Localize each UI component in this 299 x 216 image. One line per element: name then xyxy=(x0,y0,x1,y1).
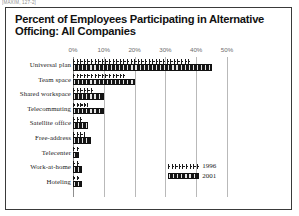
plot-area: 0%10%20%30%40%50% Universal planTeam spa… xyxy=(6,46,291,206)
category-label: Telecenter xyxy=(42,149,71,156)
bar-1996 xyxy=(73,176,79,181)
chart-row: Hoteling xyxy=(6,175,291,189)
bar-1996 xyxy=(73,117,82,122)
chart-legend: 19962001 xyxy=(168,161,238,181)
figure-frame: Percent of Employees Participating in Al… xyxy=(5,7,292,210)
grid-and-bars: Universal planTeam spaceShared workspace… xyxy=(6,57,291,197)
bar-1996 xyxy=(73,88,95,93)
x-tick-label: 40% xyxy=(190,46,202,53)
chart-row: Free-address xyxy=(6,131,291,145)
x-tick-label: 20% xyxy=(128,46,140,53)
bar-1996 xyxy=(73,59,190,64)
bar-1996 xyxy=(73,132,85,137)
bar-2001 xyxy=(73,166,82,173)
chart-row: Telecommuting xyxy=(6,102,291,116)
category-label: Team space xyxy=(38,76,71,83)
x-axis-tick-labels: 0%10%20%30%40%50% xyxy=(6,46,291,57)
category-label: Satellite office xyxy=(30,119,71,126)
bar-2001 xyxy=(73,181,82,188)
bar-1996 xyxy=(73,103,88,108)
chart-title: Percent of Employees Participating in Al… xyxy=(15,13,283,38)
bar-1996 xyxy=(73,161,79,166)
chart-row: Team space xyxy=(6,73,291,87)
legend-item: 1996 xyxy=(168,161,238,171)
x-tick-label: 30% xyxy=(159,46,171,53)
bar-2001 xyxy=(73,64,212,71)
source-caption: [MAXIM, 127-2] xyxy=(2,0,36,6)
bar-2001 xyxy=(73,79,135,86)
bar-2001 xyxy=(73,152,79,159)
chart-row: Telecenter xyxy=(6,146,291,160)
category-label: Work-at-home xyxy=(30,163,71,170)
category-label: Universal plan xyxy=(30,61,71,68)
bar-2001 xyxy=(73,108,104,115)
category-label: Free-address xyxy=(35,134,71,141)
x-tick-label: 10% xyxy=(98,46,110,53)
category-label: Shared workspace xyxy=(20,90,71,97)
chart-row: Work-at-home xyxy=(6,160,291,174)
bar-1996 xyxy=(73,147,79,152)
x-tick-label: 0% xyxy=(69,46,78,53)
bar-2001 xyxy=(73,137,91,144)
bar-1996 xyxy=(73,74,125,79)
bar-2001 xyxy=(73,122,88,129)
chart-row: Satellite office xyxy=(6,116,291,130)
category-label: Hoteling xyxy=(46,178,71,185)
category-label: Telecommuting xyxy=(27,105,71,112)
legend-label: 1996 xyxy=(202,162,216,170)
bar-2001 xyxy=(73,93,104,100)
legend-swatch-2001 xyxy=(168,173,199,179)
legend-label: 2001 xyxy=(202,172,216,180)
chart-row: Universal plan xyxy=(6,58,291,72)
legend-swatch-1996 xyxy=(168,164,199,169)
chart-row: Shared workspace xyxy=(6,87,291,101)
x-tick-label: 50% xyxy=(221,46,233,53)
legend-item: 2001 xyxy=(168,171,238,181)
